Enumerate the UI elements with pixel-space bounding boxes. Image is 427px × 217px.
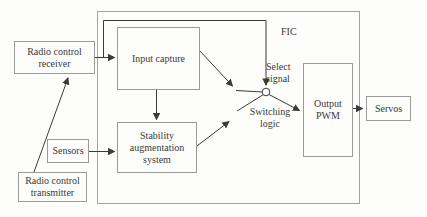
node-servos: Servos (366, 96, 411, 121)
node-sensors: Sensors (47, 139, 89, 163)
label-fic: FIC (281, 26, 297, 38)
node-radio-control-transmitter: Radio control transmitter (18, 172, 87, 202)
label-switching-logic: Switching logic (240, 106, 300, 129)
node-stability-augmentation-system: Stability augmentation system (117, 122, 197, 173)
node-input-capture: Input capture (117, 27, 200, 90)
node-output-pwm: Output PWM (303, 63, 353, 157)
node-radio-control-receiver: Radio control receiver (14, 41, 95, 74)
diagram-canvas: Radio control receiver Radio control tra… (0, 0, 427, 217)
label-select-signal: Select signal (266, 61, 290, 84)
